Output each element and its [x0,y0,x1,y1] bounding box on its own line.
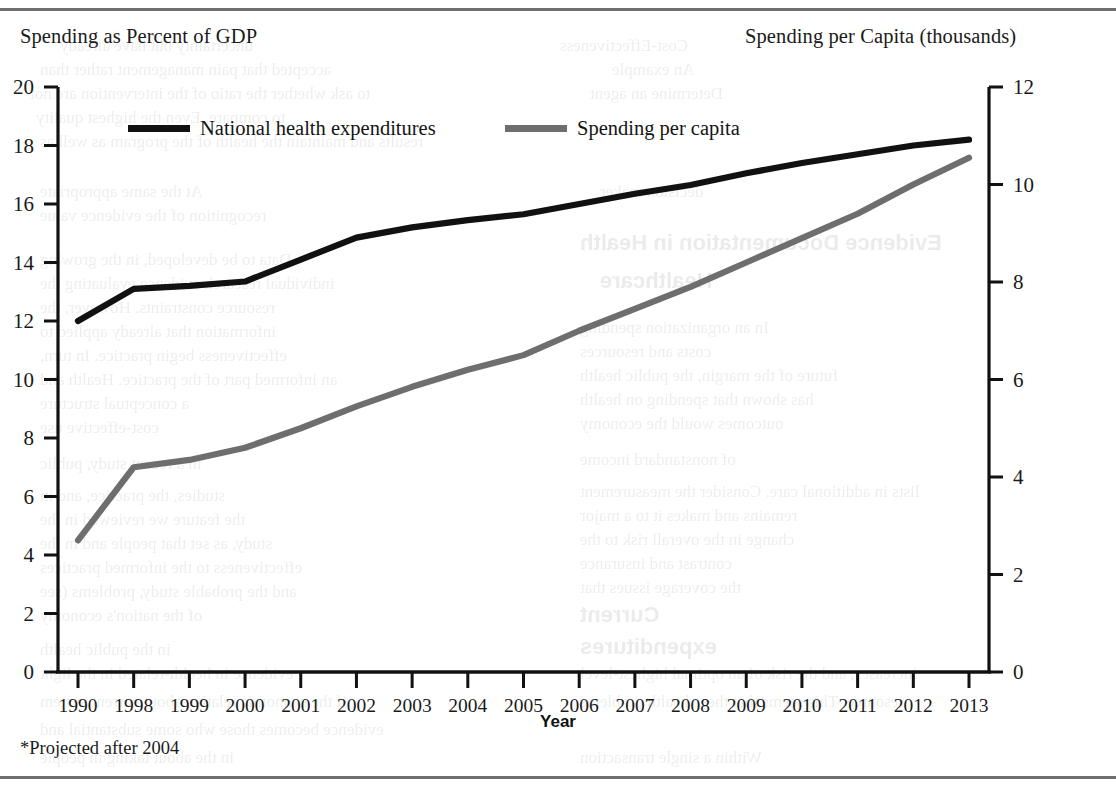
right-axis-tick-label: 6 [1013,370,1024,391]
left-axis-tick-label: 20 [0,77,34,98]
legend-swatch-gray [505,125,567,132]
left-axis-tick-label: 10 [0,370,34,391]
figure-container: Spending as Percent of GDP Spending per … [0,0,1116,791]
left-axis-tick-label: 4 [0,545,34,566]
right-axis-tick-label: 4 [1013,467,1024,488]
right-axis-tick-label: 8 [1013,272,1024,293]
figure-footnote: *Projected after 2004 [20,738,179,759]
left-axis-tick-label: 6 [0,487,34,508]
left-axis-tick-label: 8 [0,428,34,449]
right-axis-tick-label: 0 [1013,662,1024,683]
legend-swatch-black [128,125,190,132]
legend-label-national-health-expenditures: National health expenditures [200,117,436,140]
legend-label-spending-per-capita: Spending per capita [577,117,740,140]
legend-item-national-health-expenditures: National health expenditures [128,117,436,140]
left-axis-tick-label: 2 [0,604,34,625]
left-axis-tick-label: 12 [0,311,34,332]
left-axis-tick-label: 14 [0,253,34,274]
series-line-national-health-expenditures [78,140,969,321]
x-axis-title: Year [0,712,1116,732]
right-axis-tick-label: 10 [1013,175,1034,196]
right-axis-tick-label: 2 [1013,565,1024,586]
right-axis-tick-label: 12 [1013,77,1034,98]
legend-item-spending-per-capita: Spending per capita [505,117,740,140]
left-axis-tick-label: 16 [0,194,34,215]
left-axis-tick-label: 0 [0,662,34,683]
left-axis-tick-label: 18 [0,136,34,157]
